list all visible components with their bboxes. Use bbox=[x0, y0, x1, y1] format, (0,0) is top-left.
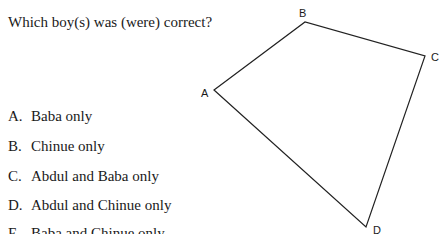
vertex-label-b: B bbox=[299, 7, 306, 19]
vertex-label-c: C bbox=[431, 51, 439, 63]
vertex-label-a: A bbox=[201, 87, 209, 99]
quadrilateral-figure: A B C D bbox=[0, 0, 442, 234]
quadrilateral-abcd bbox=[214, 22, 425, 227]
vertex-label-d: D bbox=[373, 224, 381, 234]
